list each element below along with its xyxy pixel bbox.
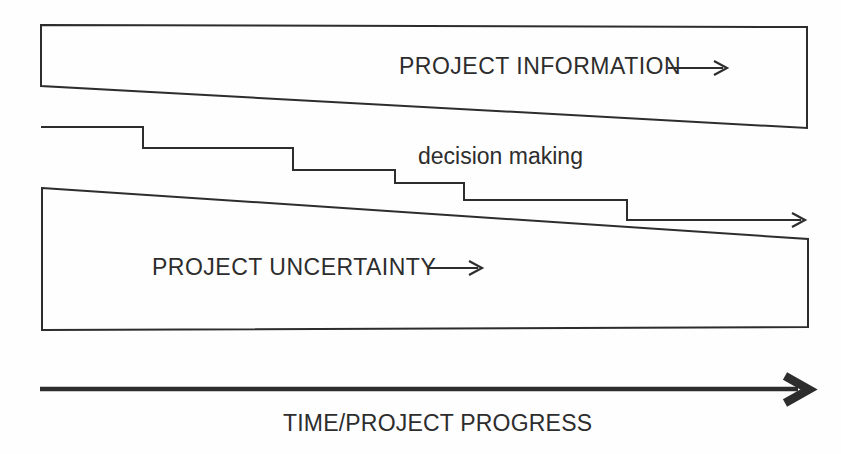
time-axis-right-arrow-icon: [40, 376, 809, 403]
diagram-canvas: PROJECT INFORMATION decision making PROJ…: [0, 0, 841, 454]
information-band-label: PROJECT INFORMATION: [399, 55, 681, 78]
uncertainty-band-label: PROJECT UNCERTAINTY: [152, 256, 436, 279]
decision-steps-label: decision making: [418, 145, 583, 168]
decision-step-line: [41, 127, 801, 220]
time-axis-label: TIME/PROJECT PROGRESS: [283, 412, 592, 435]
